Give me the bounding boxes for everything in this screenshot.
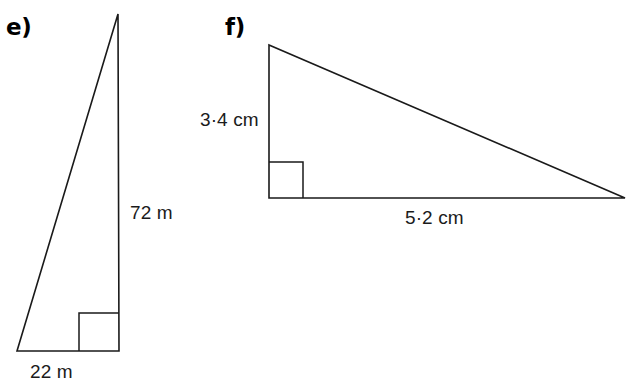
triangle-e-outline [17,14,119,351]
right-angle-marker-f [269,162,303,198]
part-label-f: f) [225,16,245,39]
geometry-figures-canvas [0,0,632,382]
triangle-f-outline [269,45,625,198]
dimension-label-f-vertical: 3·4 cm [200,110,259,129]
dimension-label-e-vertical: 72 m [130,203,173,222]
right-angle-marker-e [79,313,119,351]
figure-f-group [269,45,625,198]
part-label-e: e) [6,16,32,39]
dimension-label-e-base: 22 m [30,362,73,381]
figure-e-group [17,14,119,351]
dimension-label-f-base: 5·2 cm [405,208,464,227]
